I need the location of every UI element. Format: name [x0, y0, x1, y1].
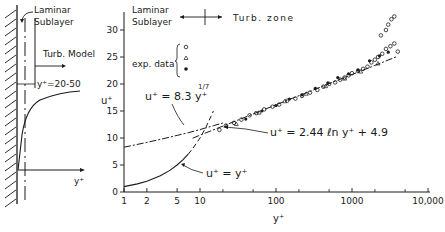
x-tick-label: 1000 — [341, 196, 364, 206]
hatch-mark — [5, 127, 16, 135]
arrowhead-icon — [80, 168, 85, 172]
hatch-mark — [5, 163, 16, 171]
hatch-mark — [5, 55, 16, 63]
data-point-open-circle — [392, 15, 396, 19]
x-tick-label: 10,000 — [412, 196, 444, 206]
hatch-mark — [5, 19, 16, 27]
legend-marker-open-circle — [184, 45, 188, 49]
curve-power-law — [124, 123, 223, 147]
yplus-range-label: y⁺=20-50 — [37, 79, 81, 89]
hatch-mark — [5, 37, 16, 45]
hatch-mark — [5, 145, 16, 153]
eq-log-text: u⁺ = 2.44 ℓn y⁺ + 4.9 — [270, 126, 388, 139]
data-point-open-circle — [396, 50, 400, 54]
hatch-mark — [5, 109, 16, 117]
hatch-mark — [5, 136, 16, 144]
turb-model-label: Turb. Model — [42, 49, 95, 59]
curves — [124, 56, 398, 186]
left-schematic: Laminar Sublayer Turb. Model y⁺=20-50 y⁺ — [5, 5, 95, 207]
y-tick-label: 0 — [112, 187, 118, 197]
eq-power-text: u⁺ = 8.3 y⁺ — [145, 90, 207, 103]
data-point-filled-circle — [314, 87, 317, 90]
hatch-mark — [5, 46, 16, 54]
legend-marker-triangle — [184, 56, 188, 60]
x-axis-label: y⁺ — [273, 213, 284, 224]
turb-zone-label: Turb. zone — [232, 13, 294, 23]
arrowhead-icon — [62, 64, 66, 68]
x-tick-label: 1 — [121, 196, 127, 206]
hatch-mark — [5, 172, 16, 180]
x-tick-label: 10 — [194, 196, 206, 206]
eq-log-label: u⁺ = 2.44 ℓn y⁺ + 4.9 — [223, 125, 388, 139]
left-yplus-label: y⁺ — [74, 176, 84, 186]
hatch-mark — [5, 28, 16, 36]
data-point-filled-circle — [326, 81, 329, 84]
data-point-filled-circle — [274, 104, 277, 107]
main-chart: 051015202530 12510100100010,000 u⁺ y⁺ La… — [101, 5, 444, 224]
arrowhead-icon — [20, 19, 24, 23]
data-point-open-circle — [380, 52, 384, 56]
hatch-mark — [5, 190, 16, 198]
data-point-open-circle — [392, 42, 396, 46]
hatch-mark — [5, 10, 16, 18]
data-point-triangle — [234, 122, 238, 126]
eq-power-label: u⁺ = 8.3 y⁺ 1/7 — [145, 83, 209, 125]
hatch-mark — [5, 118, 16, 126]
eq-log-pointer — [225, 127, 268, 133]
velocity-profile-curve — [18, 91, 80, 170]
y-ticks: 051015202530 — [107, 25, 124, 197]
eq-linear-label: u⁺ = y⁺ — [181, 163, 247, 180]
hatch-mark — [5, 181, 16, 189]
left-laminar-label-2: Sublayer — [34, 17, 74, 27]
hatch-mark — [5, 91, 16, 99]
hatch-mark — [5, 100, 16, 108]
laminar-pointer-arrow — [22, 12, 33, 20]
exp-data-points — [218, 15, 400, 132]
arrowhead-icon — [223, 125, 228, 129]
y-tick-label: 15 — [107, 106, 118, 116]
data-point-open-circle — [386, 23, 390, 27]
y-tick-label: 25 — [107, 52, 118, 62]
eq-linear-text: u⁺ = y⁺ — [206, 167, 247, 180]
hatch-mark — [5, 73, 16, 81]
data-point-filled-circle — [244, 118, 247, 121]
data-point-filled-circle — [336, 76, 339, 79]
x-tick-label: 100 — [267, 196, 284, 206]
data-point-open-circle — [384, 47, 388, 51]
data-point-filled-circle — [300, 93, 303, 96]
data-point-filled-circle — [347, 72, 350, 75]
eq-power-pointer — [172, 104, 184, 125]
y-tick-label: 20 — [107, 79, 119, 89]
data-point-open-circle — [218, 128, 222, 132]
y-tick-label: 10 — [107, 133, 119, 143]
data-point-open-circle — [384, 28, 388, 32]
legend-brace — [175, 44, 180, 77]
data-point-open-circle — [389, 44, 393, 48]
hatch-mark — [5, 154, 16, 162]
arrowhead-right-icon — [218, 15, 222, 19]
wall-hatching — [5, 10, 16, 207]
x-tick-label: 2 — [144, 196, 150, 206]
data-point-filled-circle — [288, 98, 291, 101]
eq-power-exponent: 1/7 — [198, 83, 209, 91]
data-point-open-circle — [373, 58, 377, 62]
laminar-sublayer-label-2: Sublayer — [132, 17, 172, 27]
x-ticks: 12510100100010,000 — [121, 188, 444, 206]
left-laminar-label-1: Laminar — [34, 5, 71, 15]
x-tick-label: 5 — [174, 196, 180, 206]
laminar-sublayer-label-1: Laminar — [132, 5, 169, 15]
legend-title: exp. data — [132, 59, 174, 69]
y-tick-label: 30 — [107, 25, 119, 35]
arrowhead-left-icon — [180, 15, 184, 19]
curve-linear-solid — [124, 154, 188, 186]
data-point-filled-circle — [356, 68, 359, 71]
data-point-filled-circle — [378, 54, 381, 57]
data-point-open-circle — [379, 34, 383, 38]
legend-marker-filled-circle — [184, 67, 188, 71]
data-point-filled-circle — [260, 109, 263, 112]
data-point-filled-circle — [368, 59, 371, 62]
curve-linear-dashed — [188, 111, 213, 154]
hatch-mark — [5, 64, 16, 72]
hatch-mark — [5, 82, 16, 90]
figure-canvas: Laminar Sublayer Turb. Model y⁺=20-50 y⁺… — [0, 0, 445, 232]
